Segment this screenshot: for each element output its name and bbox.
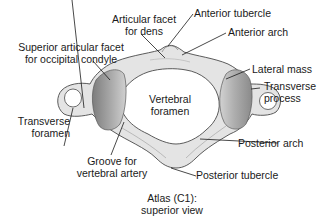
left-transverse-foramen	[65, 89, 82, 107]
label-posterior-arch: Posterior arch	[238, 138, 303, 150]
label-text: Posterior arch	[238, 137, 303, 149]
label-text: Posterior tubercle	[196, 169, 278, 181]
label-posterior-tubercle: Posterior tubercle	[196, 170, 278, 182]
label-text: process	[264, 93, 316, 105]
label-text: Lateral mass	[252, 63, 312, 75]
label-transverse-process: Transverse process	[264, 81, 316, 104]
label-text: for dens	[104, 26, 184, 38]
label-anterior-tubercle: Anterior tubercle	[194, 8, 271, 20]
label-text: Anterior tubercle	[194, 7, 271, 19]
label-anterior-arch: Anterior arch	[228, 27, 288, 39]
label-text: Anterior arch	[228, 26, 288, 38]
label-text: foramen	[138, 106, 202, 118]
label-text: foramen	[8, 128, 70, 140]
caption-line-2: superior view	[124, 205, 220, 217]
label-vertebral-foramen: Vertebral foramen	[138, 94, 202, 117]
caption-line-1: Atlas (C1):	[124, 193, 220, 205]
label-groove-for-vertebral-artery: Groove for vertebral artery	[64, 156, 160, 179]
label-transverse-foramen: Transverse foramen	[8, 116, 70, 139]
label-text: Articular facet	[104, 14, 184, 26]
label-text: vertebral artery	[64, 168, 160, 180]
right-superior-articular-facet	[220, 70, 252, 129]
label-text: for occipital condyle	[12, 54, 130, 66]
label-text: Superior articular facet	[12, 42, 130, 54]
figure-caption: Atlas (C1): superior view	[124, 193, 220, 216]
label-text: Transverse	[264, 81, 316, 93]
label-text: Groove for	[64, 156, 160, 168]
label-text: Transverse	[8, 116, 70, 128]
label-text: Vertebral	[138, 94, 202, 106]
label-articular-facet-for-dens: Articular facet for dens	[104, 14, 184, 37]
label-lateral-mass: Lateral mass	[252, 64, 312, 76]
atlas-diagram: Articular facet for dens Anterior tuberc…	[0, 0, 332, 218]
label-superior-articular-facet: Superior articular facet for occipital c…	[12, 42, 130, 65]
